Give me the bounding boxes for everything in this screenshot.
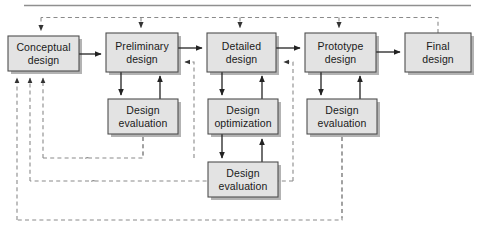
- box-conceptual-design: [8, 36, 79, 71]
- top-feedback-bus: [41, 18, 438, 34]
- process-boxes: [8, 33, 471, 197]
- design-process-flow-diagram: Conceptual design Preliminary design Det…: [0, 0, 481, 232]
- box-final-design: [405, 33, 471, 72]
- diagram-canvas: [0, 0, 481, 232]
- box-design-evaluation-preliminary: [108, 99, 178, 134]
- box-detailed-design: [207, 33, 276, 72]
- box-preliminary-design: [106, 33, 178, 72]
- box-prototype-design: [305, 33, 376, 72]
- line-jump-hops: [83, 158, 95, 182]
- box-design-evaluation-detailed: [208, 162, 278, 197]
- box-design-optimization-detailed: [208, 99, 278, 134]
- box-design-evaluation-prototype: [307, 99, 377, 134]
